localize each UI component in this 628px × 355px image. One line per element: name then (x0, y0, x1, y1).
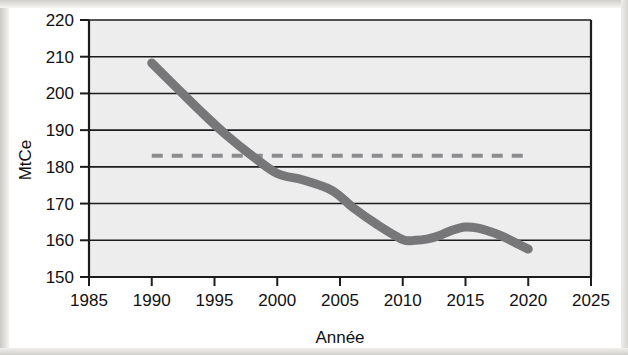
y-tick-label: 210 (46, 48, 74, 67)
figure-page: 150160170180190200210220 198519901995200… (0, 0, 628, 355)
y-tick-label: 170 (46, 195, 74, 214)
y-tick-label: 220 (46, 11, 74, 30)
x-axis-ticks: 198519901995200020052010201520202025 (70, 277, 610, 310)
x-tick-label: 2025 (572, 291, 610, 310)
x-axis-title: Année (315, 328, 364, 347)
x-tick-label: 1995 (196, 291, 234, 310)
y-tick-label: 180 (46, 158, 74, 177)
line-chart: 150160170180190200210220 198519901995200… (0, 0, 628, 355)
y-tick-label: 190 (46, 121, 74, 140)
x-tick-label: 2000 (258, 291, 296, 310)
x-tick-label: 2005 (321, 291, 359, 310)
x-tick-label: 1990 (133, 291, 171, 310)
x-tick-label: 2010 (384, 291, 422, 310)
x-tick-label: 2020 (509, 291, 547, 310)
y-axis-ticks: 150160170180190200210220 (46, 11, 89, 287)
x-tick-label: 2015 (447, 291, 485, 310)
y-tick-label: 200 (46, 84, 74, 103)
y-tick-label: 160 (46, 231, 74, 250)
y-axis-title: MtCe (16, 140, 35, 181)
x-tick-label: 1985 (70, 291, 108, 310)
y-tick-label: 150 (46, 268, 74, 287)
